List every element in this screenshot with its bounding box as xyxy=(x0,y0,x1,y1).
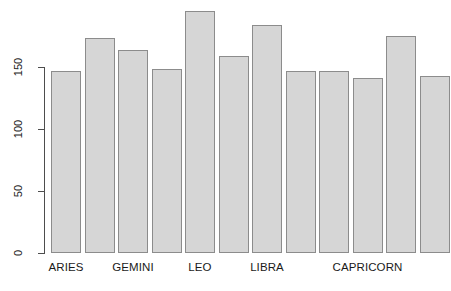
bar xyxy=(85,38,115,253)
bar xyxy=(319,71,349,253)
bar xyxy=(152,69,182,253)
bar xyxy=(219,56,249,253)
bar xyxy=(185,11,215,253)
bar xyxy=(286,71,316,253)
y-axis-tick xyxy=(38,191,44,192)
bar xyxy=(118,50,148,253)
bar-chart: 050100150 ARIESGEMINILEOLIBRACAPRICORN xyxy=(0,0,451,291)
bar xyxy=(353,78,383,253)
bar xyxy=(420,76,450,253)
y-axis-tick xyxy=(38,67,44,68)
bar xyxy=(51,71,81,253)
plot-area xyxy=(51,0,441,253)
y-axis-line xyxy=(44,67,45,254)
y-axis-tick xyxy=(38,253,44,254)
y-axis-tick xyxy=(38,129,44,130)
bar xyxy=(386,36,416,253)
x-axis-tick-label: CAPRICORN xyxy=(308,261,428,273)
bar xyxy=(252,25,282,253)
